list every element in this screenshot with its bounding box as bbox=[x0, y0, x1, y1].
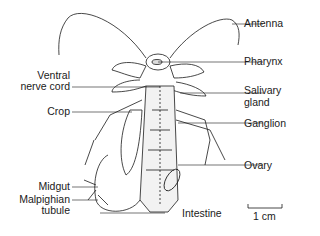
right-antenna bbox=[170, 19, 239, 58]
left-antenna bbox=[59, 13, 146, 58]
midgut-tube bbox=[95, 155, 140, 211]
label-crop: Crop bbox=[47, 106, 70, 117]
scale-bar-label: 1 cm bbox=[253, 211, 276, 222]
label-intestine: Intestine bbox=[182, 208, 222, 219]
label-salivary-gland-1: Salivary bbox=[244, 85, 281, 96]
scale-bar bbox=[248, 204, 282, 208]
label-salivary-gland-2: gland bbox=[244, 97, 270, 108]
label-ventral-nerve-cord-2: nerve cord bbox=[20, 81, 70, 92]
label-ganglion: Ganglion bbox=[244, 118, 286, 129]
label-ovary: Ovary bbox=[244, 160, 272, 171]
label-midgut: Midgut bbox=[38, 181, 70, 192]
label-malpighian-tubule-2: tubule bbox=[41, 205, 70, 216]
abdomen bbox=[140, 86, 178, 212]
label-pharynx: Pharynx bbox=[244, 56, 283, 67]
crop bbox=[121, 110, 142, 175]
label-antenna: Antenna bbox=[244, 18, 283, 29]
